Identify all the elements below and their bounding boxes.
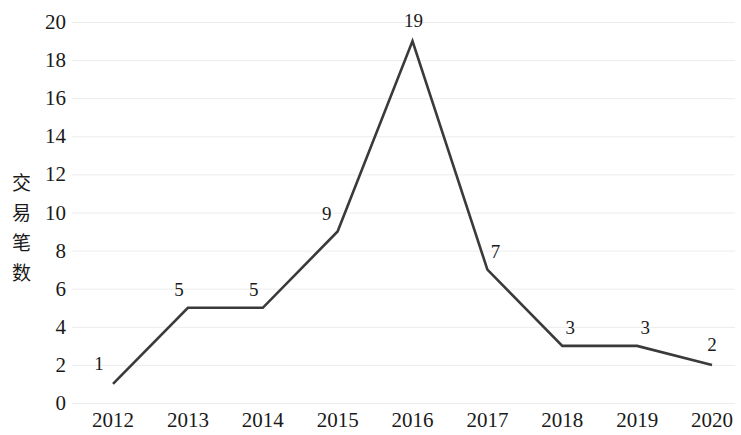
line-chart: 交易笔数 20181614121086420 20122013201420152…: [0, 0, 741, 435]
data-point-label: 5: [234, 280, 274, 299]
data-point-label: 7: [475, 242, 515, 261]
data-point-label: 2: [692, 335, 732, 354]
data-point-label: 1: [79, 354, 119, 373]
data-point-label: 19: [394, 11, 434, 30]
data-point-label: 3: [550, 318, 590, 337]
data-point-labels: 1559197332: [0, 0, 741, 435]
data-point-label: 9: [307, 204, 347, 223]
data-point-label: 5: [159, 280, 199, 299]
data-point-label: 3: [625, 318, 665, 337]
